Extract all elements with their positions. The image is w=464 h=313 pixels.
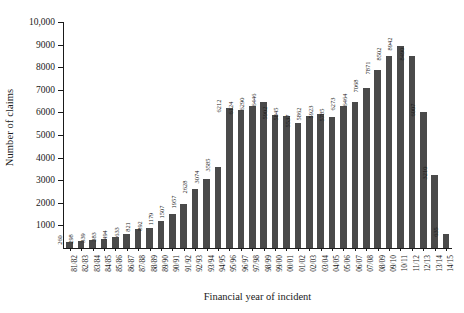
- x-axis-tick: 09/10: [383, 250, 394, 286]
- bar: 6290: [249, 106, 256, 248]
- bar-cell: 494: [110, 22, 121, 248]
- bar-cell: 8490: [406, 22, 417, 248]
- y-axis-tick-mark: [58, 90, 63, 91]
- x-axis-tick-mark: [298, 248, 299, 251]
- x-axis-tick-mark: [241, 248, 242, 251]
- bar: 2628: [192, 189, 199, 248]
- bar-cell: 260: [64, 22, 75, 248]
- y-axis-tick-mark: [58, 203, 63, 204]
- x-axis-tick-mark: [115, 248, 116, 251]
- x-axis-tick-mark: [81, 248, 82, 251]
- x-axis-tick: 02/03: [304, 250, 315, 286]
- bar: 8502: [386, 56, 393, 248]
- y-axis-tick-mark: [58, 225, 63, 226]
- bar-value-label: 3585: [211, 159, 218, 172]
- x-axis-tick: 01/02: [292, 250, 303, 286]
- bar-value-label: 1957: [177, 195, 184, 208]
- x-axis-tick-mark: [207, 248, 208, 251]
- x-axis-tick: 00/01: [281, 250, 292, 286]
- x-axis-tick: 95/96: [224, 250, 235, 286]
- x-axis-tick: 92/93: [189, 250, 200, 286]
- x-axis-tick-mark: [172, 248, 173, 251]
- x-axis-tick-mark: [286, 248, 287, 251]
- bar-cell: 6290: [247, 22, 258, 248]
- bar: 8490: [409, 56, 416, 248]
- y-axis-tick-label: 4000: [36, 153, 55, 163]
- x-axis-tick-mark: [400, 248, 401, 251]
- x-axis-tick-mark: [184, 248, 185, 251]
- y-axis-tick-label: 8000: [36, 62, 55, 72]
- bar: 5902: [272, 115, 279, 248]
- bar: 383: [101, 239, 108, 248]
- bar-cell: 1957: [178, 22, 189, 248]
- x-axis-tick: 06/07: [349, 250, 360, 286]
- x-axis-tick-mark: [446, 248, 447, 251]
- bar: 5845: [283, 116, 290, 248]
- bar-value-label: 8490: [405, 48, 412, 61]
- x-axis-tick-mark: [218, 248, 219, 251]
- bar: 5862: [306, 116, 313, 248]
- bar-cell: 5902: [269, 22, 280, 248]
- y-axis-tick-mark: [58, 67, 63, 68]
- x-axis-tick: 10/11: [395, 250, 406, 286]
- bar-value-label: 6446: [257, 94, 264, 107]
- bar-cell: 635: [440, 22, 451, 248]
- x-axis-tick-mark: [366, 248, 367, 251]
- x-axis-tick-mark: [332, 248, 333, 251]
- x-axis-tick-mark: [161, 248, 162, 251]
- bar-cell: 6007: [418, 22, 429, 248]
- bar-cell: 6212: [224, 22, 235, 248]
- x-axis-tick-mark: [252, 248, 253, 251]
- bar: 3585: [215, 167, 222, 248]
- x-axis-tick-mark: [321, 248, 322, 251]
- bar-cell: 6273: [338, 22, 349, 248]
- plot-area: 10,0009000800070006000500040003000200010…: [63, 22, 452, 248]
- bar: 6212: [226, 108, 233, 248]
- y-axis-tick-label: 5000: [36, 130, 55, 140]
- x-axis-tick-mark: [355, 248, 356, 251]
- x-axis-tick: 12/13: [418, 250, 429, 286]
- x-axis-tick-mark: [378, 248, 379, 251]
- bar-cell: 6464: [349, 22, 360, 248]
- x-axis-tick-label: 14/15: [446, 255, 455, 272]
- x-axis-tick: 03/04: [315, 250, 326, 286]
- bar-cell: 3585: [212, 22, 223, 248]
- x-axis-tick: 14/15: [440, 250, 451, 286]
- x-axis-tick-mark: [389, 248, 390, 251]
- bar-cell: 5785: [326, 22, 337, 248]
- x-axis-tick: 88/89: [144, 250, 155, 286]
- x-axis-tick-mark: [264, 248, 265, 251]
- x-axis-title: Financial year of incident: [63, 291, 452, 302]
- x-axis-tick: 11/12: [406, 250, 417, 286]
- bar-cell: 3210: [429, 22, 440, 248]
- bar-value-label: 3074: [200, 170, 207, 183]
- bar: 494: [112, 237, 119, 248]
- bar: 6446: [260, 102, 267, 248]
- bar: 6007: [420, 112, 427, 248]
- bar-cell: 5537: [292, 22, 303, 248]
- bar-cell: 5862: [304, 22, 315, 248]
- bar-value-label: 635: [439, 227, 446, 237]
- x-axis-tick: 93/94: [201, 250, 212, 286]
- bar: 6464: [352, 102, 359, 248]
- x-axis-tick-mark: [138, 248, 139, 251]
- bar: 3074: [203, 179, 210, 248]
- bar-value-label: 3210: [428, 167, 435, 180]
- bar-cell: 7068: [361, 22, 372, 248]
- x-axis-tick: 04/05: [326, 250, 337, 286]
- bar-cell: 8502: [383, 22, 394, 248]
- bar-value-label: 7871: [371, 62, 378, 75]
- x-axis-tick-mark: [412, 248, 413, 251]
- x-axis-tick-mark: [229, 248, 230, 251]
- x-axis-tick: 97/98: [247, 250, 258, 286]
- y-axis-tick-mark: [58, 180, 63, 181]
- x-axis-tick-mark: [93, 248, 94, 251]
- bar: 1957: [180, 204, 187, 248]
- x-axis-tick: 99/00: [269, 250, 280, 286]
- x-axis-tick: 83/84: [87, 250, 98, 286]
- x-axis-tick: 90/91: [167, 250, 178, 286]
- bar: 3210: [431, 175, 438, 248]
- x-axis-tick-mark: [104, 248, 105, 251]
- y-axis-tick-mark: [58, 45, 63, 46]
- bar-cell: 2628: [189, 22, 200, 248]
